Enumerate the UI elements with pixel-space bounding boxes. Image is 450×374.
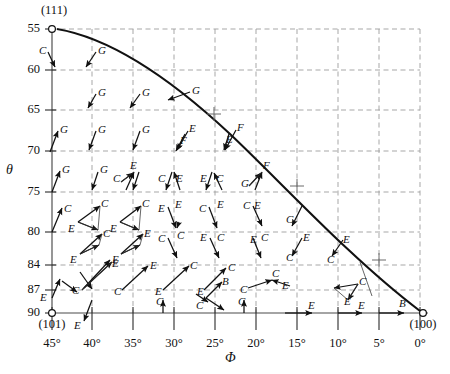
vector-label: E: [112, 258, 119, 269]
vector-label: E: [176, 173, 183, 184]
vector-label: C: [177, 230, 184, 241]
vector-label: E: [74, 320, 81, 331]
vector-label: G: [142, 87, 150, 98]
x-tick-35: 35°: [113, 336, 153, 351]
vector-label: E: [189, 123, 196, 134]
vector-label: C: [39, 45, 46, 56]
vector-label: C: [196, 300, 203, 311]
vector-label: C: [101, 198, 108, 209]
vector-label: G: [98, 45, 106, 56]
vector-label: G: [192, 85, 200, 96]
y-tick-84: 84: [10, 257, 40, 272]
vector-label: C: [216, 173, 223, 184]
x-axis-label: Φ: [225, 350, 236, 366]
vector-label: C: [228, 262, 235, 273]
vector-label: C: [158, 173, 165, 184]
vector-label: C: [272, 268, 279, 279]
x-tick-25: 25°: [195, 336, 235, 351]
vector-label: E: [158, 203, 165, 214]
vector-label: G: [60, 124, 68, 135]
boundary-cross-marks: [207, 107, 386, 267]
vector-label: C: [243, 200, 250, 211]
vector-label: C: [261, 232, 268, 243]
vector-label: C: [199, 203, 206, 214]
vector-label: B: [399, 298, 406, 309]
pole-101-marker: [49, 310, 56, 317]
vector-label: C: [286, 252, 293, 263]
vector-label: G: [98, 87, 106, 98]
x-tick-0: 0°: [400, 336, 440, 351]
vector-label: E: [70, 254, 77, 265]
vector-label: E: [358, 300, 365, 311]
y-tick-87: 87: [10, 282, 40, 297]
y-tick-80: 80: [10, 224, 40, 239]
vector-label: C: [103, 228, 110, 239]
x-tick-5: 5°: [359, 336, 399, 351]
vector-label: F: [263, 160, 270, 171]
vector-label: G: [100, 164, 108, 175]
y-tick-60: 60: [10, 62, 40, 77]
x-tick-45: 45°: [32, 336, 72, 351]
vector-label: E: [197, 286, 204, 297]
pole-label-111: (111): [32, 3, 76, 18]
vector-label: F: [180, 135, 187, 146]
vector-label: E: [40, 292, 47, 303]
vector-label: C: [72, 285, 79, 296]
vector-label: E: [250, 234, 257, 245]
pole-label-100: (100): [401, 317, 445, 332]
vector-label: C: [217, 232, 224, 243]
vector-label: C: [359, 276, 366, 287]
vector-label: C: [286, 214, 293, 225]
figure-canvas: 55 60 65 70 75 80 84 87 90 θ 45° 40° 35°…: [0, 0, 450, 374]
x-tick-15: 15°: [277, 336, 317, 351]
y-tick-70: 70: [10, 143, 40, 158]
y-tick-75: 75: [10, 184, 40, 199]
vector-label: E: [226, 134, 233, 145]
y-axis-label: θ: [6, 162, 13, 178]
vector-label: E: [344, 296, 351, 307]
y-tick-65: 65: [10, 102, 40, 117]
vector-label: C: [158, 233, 165, 244]
vector-label: E: [144, 228, 151, 239]
vector-label: E: [282, 280, 289, 291]
vector-label: B: [222, 276, 229, 287]
vector-label: G: [62, 164, 70, 175]
vector-label: E: [217, 199, 224, 210]
x-tick-10: 10°: [318, 336, 358, 351]
vector-label: E: [68, 223, 75, 234]
vector-label: E: [308, 300, 315, 311]
vector-label: C: [113, 173, 120, 184]
vector-label: F: [237, 122, 244, 133]
vector-label: G: [142, 124, 150, 135]
vector-label: C: [64, 203, 71, 214]
vector-label: G: [241, 178, 249, 189]
vector-label: E: [303, 232, 310, 243]
vector-label: C: [156, 296, 163, 307]
vector-label: C: [142, 198, 149, 209]
vector-label: E: [130, 160, 137, 171]
vector-label: E: [254, 200, 261, 211]
x-tick-20: 20°: [236, 336, 276, 351]
pole-100-marker: [420, 310, 427, 317]
vector-label: C: [190, 260, 197, 271]
x-tick-40: 40°: [72, 336, 112, 351]
vector-label: E: [110, 223, 117, 234]
vector-label: E: [200, 173, 207, 184]
pole-111-marker: [49, 26, 56, 33]
vector-label: E: [200, 232, 207, 243]
vector-label: C: [114, 286, 121, 297]
vector-label: C: [240, 284, 247, 295]
grid-horizontal-dashed: [52, 29, 420, 290]
vector-label: C: [327, 254, 334, 265]
vector-label: E: [343, 234, 350, 245]
y-tick-55: 55: [10, 21, 40, 36]
vector-label: C: [238, 296, 245, 307]
vector-label: G: [98, 124, 106, 135]
x-tick-30: 30°: [154, 336, 194, 351]
vector-label: E: [175, 199, 182, 210]
pole-label-101: (101): [30, 317, 74, 332]
vector-label: E: [150, 260, 157, 271]
